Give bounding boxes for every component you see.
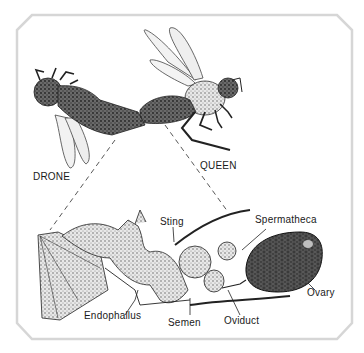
label-endophallus: Endophallus: [84, 310, 141, 321]
label-spermatheca: Spermatheca: [255, 214, 317, 225]
queen-bee-illustration: [140, 28, 242, 150]
label-oviduct: Oviduct: [224, 315, 259, 326]
label-sting: Sting: [160, 216, 184, 227]
label-semen: Semen: [168, 317, 201, 328]
label-ovary: Ovary: [307, 287, 335, 298]
drone-bee-illustration: [34, 68, 145, 168]
label-queen: QUEEN: [200, 160, 237, 171]
label-drone: DRONE: [33, 171, 70, 182]
